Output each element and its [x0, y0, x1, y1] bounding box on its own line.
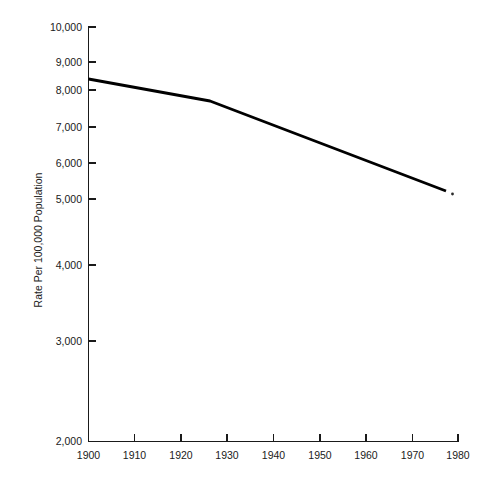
- x-tick-label: 1980: [446, 449, 470, 461]
- x-tick-label: 1960: [354, 449, 378, 461]
- x-axis-tick-labels: 1900 1910 1920 1930 1940 1950 1960 1970 …: [77, 449, 470, 461]
- x-tick-label: 1940: [262, 449, 286, 461]
- y-tick-label: 10,000: [50, 21, 82, 33]
- y-tick-label: 5,000: [56, 193, 82, 205]
- y-tick-label: 9,000: [56, 56, 82, 68]
- y-axis-title: Rate Per 100,000 Population: [32, 172, 44, 307]
- x-tick-label: 1920: [169, 449, 193, 461]
- y-tick-label: 6,000: [56, 157, 82, 169]
- end-point-marker: [451, 193, 454, 196]
- x-axis-ticks: [135, 434, 459, 442]
- y-tick-label: 7,000: [56, 121, 82, 133]
- x-tick-label: 1900: [77, 449, 101, 461]
- y-tick-label: 4,000: [56, 259, 82, 271]
- y-tick-label: 8,000: [56, 84, 82, 96]
- y-axis-tick-labels: 10,000 9,000 8,000 7,000 6,000 5,000 4,0…: [50, 21, 82, 447]
- x-tick-label: 1930: [215, 449, 239, 461]
- data-series-line: [89, 79, 447, 191]
- chart-container: 10,000 9,000 8,000 7,000 6,000 5,000 4,0…: [0, 0, 489, 482]
- x-tick-label: 1950: [308, 449, 332, 461]
- x-tick-label: 1970: [401, 449, 425, 461]
- y-tick-label: 2,000: [56, 435, 82, 447]
- y-tick-label: 3,000: [56, 335, 82, 347]
- y-axis-ticks: [89, 27, 97, 341]
- x-tick-label: 1910: [123, 449, 147, 461]
- line-chart: 10,000 9,000 8,000 7,000 6,000 5,000 4,0…: [0, 0, 489, 482]
